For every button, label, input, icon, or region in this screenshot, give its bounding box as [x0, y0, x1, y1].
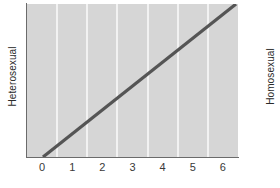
kinsey-scale-chart: 0 1 2 3 4 5 6 Heterosexual Homosexual [0, 0, 280, 188]
x-tick-5: 5 [178, 160, 208, 176]
x-tick-6: 6 [208, 160, 238, 176]
plot-area [27, 4, 238, 157]
x-tick-1: 1 [57, 160, 87, 176]
left-axis-label-text: Heterosexual [7, 46, 18, 106]
right-axis-label: Homosexual [242, 0, 278, 153]
right-axis-label-text: Homosexual [265, 48, 276, 105]
x-tick-0: 0 [27, 160, 57, 176]
x-tick-2: 2 [87, 160, 117, 176]
x-tick-4: 4 [148, 160, 178, 176]
x-tick-3: 3 [117, 160, 147, 176]
y-axis-line [26, 3, 27, 158]
x-axis-tick-labels: 0 1 2 3 4 5 6 [27, 160, 238, 176]
x-axis-line [26, 157, 239, 158]
left-axis-label: Heterosexual [0, 0, 24, 153]
trend-line [27, 4, 238, 157]
